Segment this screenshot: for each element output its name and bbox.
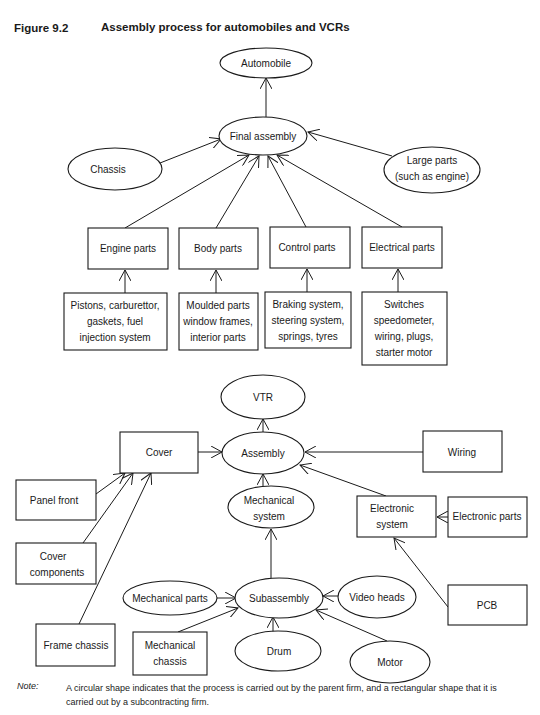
node-electrical-parts: Electrical parts (362, 227, 442, 268)
node-label: chassis (153, 656, 186, 667)
node-label: Chassis (90, 164, 126, 175)
node-label: (such as engine) (395, 171, 469, 182)
node-pcb: PCB (448, 585, 527, 625)
node-mechanical-chassis: Mechanical chassis (133, 632, 207, 675)
edge-electrical-parts-to-final-assembly (277, 155, 402, 227)
node-label: Mechanical (145, 640, 196, 651)
node-label: Assembly (241, 448, 284, 459)
edge-electronic-system-to-assembly (300, 465, 386, 496)
node-label: Engine parts (100, 243, 156, 254)
node-electronic-parts: Electronic parts (448, 497, 527, 537)
node-label: starter motor (376, 347, 433, 358)
node-label: wiring, plugs, (374, 331, 433, 342)
node-label: system (376, 519, 408, 530)
node-label: steering system, (272, 315, 345, 326)
node-label: Automobile (241, 58, 291, 69)
node-label: Final assembly (230, 131, 297, 142)
node-engine-components: Pistons, carburettor, gaskets, fuel inje… (64, 293, 167, 350)
node-label: Electronic (370, 503, 414, 514)
node-body-parts: Body parts (179, 228, 258, 269)
node-label: injection system (79, 332, 150, 343)
node-motor: Motor (350, 641, 430, 683)
node-engine-parts: Engine parts (88, 228, 168, 269)
node-electrical-components: Switches speedometer, wiring, plugs, sta… (362, 292, 447, 365)
node-vtr: VTR (221, 375, 305, 419)
node-label: Frame chassis (43, 640, 108, 651)
node-label: Moulded parts (186, 300, 249, 311)
node-label: components (30, 567, 84, 578)
node-label: Wiring (448, 447, 476, 458)
node-video-heads: Video heads (338, 576, 416, 618)
node-cover: Cover (120, 432, 198, 473)
node-label: Cover (146, 447, 173, 458)
node-mechanical-system: Mechanical system (228, 486, 314, 528)
node-cover-components: Cover components (16, 543, 96, 584)
node-label: Cover (40, 551, 67, 562)
node-label: Mechanical (244, 495, 295, 506)
note-text: A circular shape indicates that the proc… (66, 681, 506, 709)
node-label: gaskets, fuel (87, 316, 143, 327)
node-control-components: Braking system, steering system, springs… (265, 292, 351, 348)
node-label: Electrical parts (369, 242, 435, 253)
node-label: Mechanical parts (132, 593, 208, 604)
node-frame-chassis: Frame chassis (36, 624, 115, 666)
node-label: system (253, 511, 285, 522)
node-label: Large parts (407, 155, 458, 166)
node-subassembly: Subassembly (235, 578, 323, 618)
node-label: Body parts (194, 243, 242, 254)
node-label: Braking system, (272, 299, 343, 310)
node-drum: Drum (235, 631, 321, 671)
node-label: Pistons, carburettor, (71, 300, 160, 311)
node-label: Video heads (349, 592, 404, 603)
node-large-parts: Large parts (such as engine) (384, 147, 480, 193)
node-final-assembly: Final assembly (219, 117, 307, 155)
node-wiring: Wiring (423, 431, 502, 472)
note-label: Note: (17, 681, 39, 691)
node-electronic-system: Electronic system (357, 496, 436, 537)
node-panel-front: Panel front (16, 480, 96, 520)
node-label: Drum (267, 646, 291, 657)
node-assembly: Assembly (222, 432, 304, 474)
edge-control-parts-to-final-assembly (268, 156, 306, 227)
node-label: Motor (377, 657, 403, 668)
assembly-diagram: Automobile Final assembly Chassis Large … (0, 0, 540, 715)
node-label: PCB (477, 600, 498, 611)
edge-large-parts-to-final-assembly (308, 132, 392, 156)
node-mechanical-parts: Mechanical parts (123, 581, 217, 615)
node-chassis: Chassis (68, 148, 162, 190)
node-label: interior parts (190, 332, 246, 343)
node-body-components: Moulded parts window frames, interior pa… (179, 293, 258, 350)
node-label: Subassembly (249, 593, 309, 604)
node-label: Electronic parts (453, 511, 522, 522)
node-label: VTR (253, 392, 273, 403)
node-label: Switches (384, 299, 424, 310)
edge-chassis-to-final-assembly (160, 139, 221, 163)
node-automobile: Automobile (220, 48, 312, 78)
node-label: Control parts (278, 242, 335, 253)
node-label: window frames, (182, 316, 252, 327)
edge-body-parts-to-final-assembly (216, 156, 259, 228)
node-label: springs, tyres (278, 331, 337, 342)
node-control-parts: Control parts (270, 227, 350, 268)
node-label: Panel front (30, 495, 79, 506)
node-label: speedometer, (374, 315, 435, 326)
